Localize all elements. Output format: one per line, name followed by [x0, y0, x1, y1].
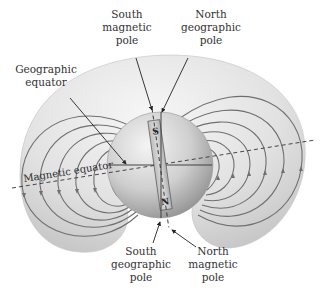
svg-text:magnetic: magnetic	[102, 21, 151, 33]
svg-text:Geographic: Geographic	[15, 63, 77, 75]
svg-text:pole: pole	[116, 34, 139, 46]
label-south-geographic-pole: South geographic pole	[111, 245, 171, 283]
svg-text:South: South	[125, 245, 156, 257]
svg-text:equator: equator	[25, 76, 67, 88]
svg-text:North: North	[195, 8, 227, 20]
svg-text:geographic: geographic	[181, 21, 241, 33]
svg-text:North: North	[197, 245, 229, 257]
bar-magnet-s-label: S	[152, 126, 160, 137]
bar-magnet-n-label: N	[160, 196, 170, 207]
svg-text:magnetic: magnetic	[188, 258, 237, 270]
north-magnetic-pole-pointer	[172, 230, 196, 247]
label-south-magnetic-pole: South magnetic pole	[102, 8, 151, 46]
svg-text:pole: pole	[202, 271, 225, 283]
svg-text:pole: pole	[200, 34, 223, 46]
south-geographic-pole-pointer	[153, 222, 160, 243]
svg-text:pole: pole	[130, 271, 153, 283]
earth-magnetic-field-diagram: S N South magnetic pole North geographic…	[0, 0, 320, 290]
label-north-magnetic-pole: North magnetic pole	[188, 245, 237, 283]
label-north-geographic-pole: North geographic pole	[181, 8, 241, 46]
svg-text:geographic: geographic	[111, 258, 171, 270]
svg-text:South: South	[111, 8, 142, 20]
